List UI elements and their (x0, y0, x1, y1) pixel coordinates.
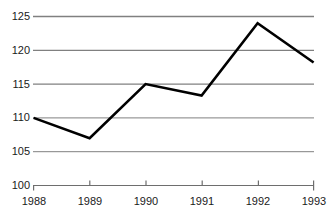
y-axis-label-110: 110 (2, 112, 30, 123)
y-axis-label-100: 100 (2, 180, 30, 191)
x-axis-label-1992: 1992 (236, 196, 280, 207)
y-axis-label-125: 125 (2, 11, 30, 22)
x-axis-label-1993: 1993 (292, 196, 336, 207)
chart-plot-area (0, 0, 336, 216)
line-chart: 125 120 115 110 105 100 1988 1989 1990 1… (0, 0, 336, 216)
x-axis-label-1988: 1988 (12, 196, 56, 207)
y-axis-label-115: 115 (2, 79, 30, 90)
gridlines (33, 17, 314, 152)
data-series-line (34, 23, 314, 138)
y-axis-label-105: 105 (2, 146, 30, 157)
x-axis-label-1989: 1989 (68, 196, 112, 207)
x-axis (33, 181, 314, 191)
x-axis-label-1991: 1991 (180, 196, 224, 207)
x-axis-label-1990: 1990 (124, 196, 168, 207)
y-axis-label-120: 120 (2, 45, 30, 56)
